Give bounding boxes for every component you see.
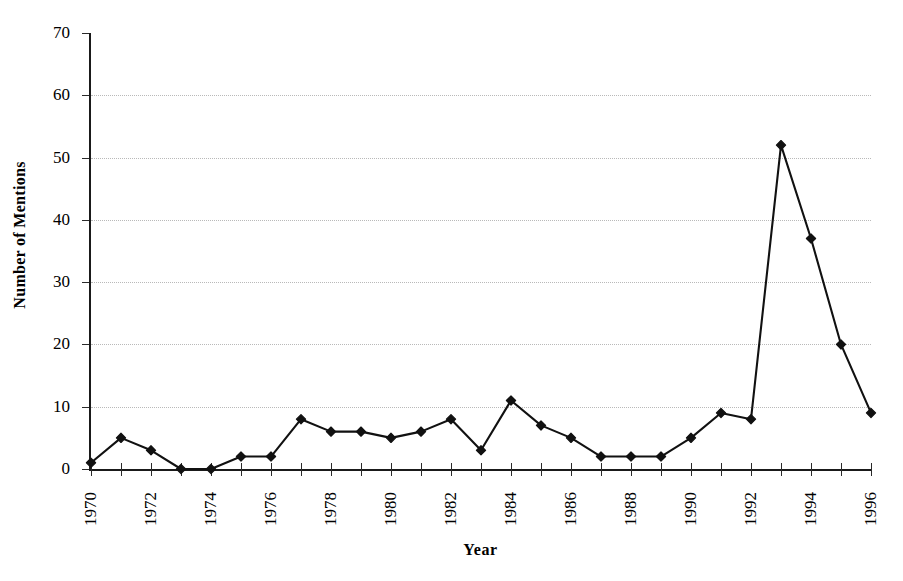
data-point-marker [506,396,515,405]
data-point-marker [116,433,125,442]
x-axis-tick-mark [631,463,632,476]
y-axis-tick-label: 60 [26,86,70,103]
gridline [91,407,871,409]
x-axis-tick-label: 1976 [261,481,281,539]
x-axis-tick-label: 1988 [621,481,641,539]
x-axis-tick-label: 1986 [561,481,581,539]
x-axis-tick-label-text: 1994 [802,480,820,538]
x-axis-tick-mark [391,463,392,476]
x-axis-tick-mark [91,463,92,476]
x-axis-tick-mark [871,463,872,476]
data-point-marker [656,452,665,461]
x-axis-tick-mark [121,463,122,476]
data-point-marker [776,141,785,150]
y-axis-tick-label: 50 [26,149,70,166]
x-axis-tick-label-text: 1988 [622,480,640,538]
x-axis-tick-label-text: 1984 [502,480,520,538]
x-axis-tick-mark [331,463,332,476]
x-axis-tick-label: 1996 [861,481,881,539]
x-axis-title: Year [89,541,872,559]
x-axis-tick-label-text: 1970 [82,480,100,538]
x-axis-tick-label: 1982 [441,481,461,539]
x-axis-tick-mark [781,463,782,476]
x-axis-tick-mark [661,463,662,476]
x-axis-tick-mark [571,463,572,476]
x-axis-tick-mark [301,463,302,476]
data-point-marker [596,452,605,461]
x-axis-tick-label: 1978 [321,481,341,539]
x-axis-tick-label-text: 1976 [262,480,280,538]
gridline [91,158,871,160]
x-axis-tick-mark [541,463,542,476]
y-axis-tick-label: 20 [26,335,70,352]
y-axis-tick-label: 70 [26,24,70,41]
data-point-marker [686,433,695,442]
data-point-marker [416,427,425,436]
x-axis-tick-label-text: 1992 [742,480,760,538]
y-axis-tick-label: 30 [26,273,70,290]
x-axis-tick-label-text: 1972 [142,480,160,538]
gridline [91,95,871,97]
data-point-marker [806,234,815,243]
data-point-marker [326,427,335,436]
x-axis-tick-label-text: 1982 [442,480,460,538]
x-axis-tick-label: 1984 [501,481,521,539]
x-axis-tick-label: 1990 [681,481,701,539]
x-axis-tick-mark [511,463,512,476]
x-axis-tick-label-text: 1974 [202,480,220,538]
data-point-marker [446,415,455,424]
data-point-marker [236,452,245,461]
x-axis-tick-label-text: 1978 [322,480,340,538]
data-point-marker [266,452,275,461]
y-axis-tick-label: 40 [26,211,70,228]
data-point-marker [146,446,155,455]
x-axis-tick-label: 1992 [741,481,761,539]
y-axis-tick-label: 0 [26,460,70,477]
x-axis-tick-label: 1980 [381,481,401,539]
y-axis-tick-label: 10 [26,398,70,415]
x-axis-tick-mark [601,463,602,476]
x-axis-tick-mark [721,463,722,476]
data-point-marker [716,408,725,417]
chart-figure: Number of Mentions 010203040506070 19701… [0,0,903,581]
series-polyline [91,145,871,469]
x-axis-tick-mark [481,463,482,476]
x-axis-tick-mark [691,463,692,476]
gridline [91,282,871,284]
x-axis-tick-label: 1974 [201,481,221,539]
gridline [91,220,871,222]
x-axis-tick-label: 1970 [81,481,101,539]
data-point-marker [536,421,545,430]
data-point-marker [746,415,755,424]
data-point-marker [386,433,395,442]
x-axis-tick-mark [181,463,182,476]
x-axis-tick-mark [811,463,812,476]
x-axis-tick-label-text: 1980 [382,480,400,538]
x-axis-tick-label-text: 1986 [562,480,580,538]
x-axis-tick-label: 1994 [801,481,821,539]
x-axis-tick-label: 1972 [141,481,161,539]
x-axis-tick-mark [451,463,452,476]
data-point-marker [566,433,575,442]
x-axis-tick-mark [211,463,212,476]
data-point-marker [296,415,305,424]
x-axis-tick-mark [361,463,362,476]
data-point-marker [476,446,485,455]
x-axis-tick-mark [241,463,242,476]
x-axis-tick-mark [751,463,752,476]
data-point-marker [626,452,635,461]
data-point-marker [356,427,365,436]
y-axis-line [89,33,91,471]
data-point-marker [866,408,875,417]
x-axis-tick-mark [421,463,422,476]
x-axis-tick-mark [841,463,842,476]
gridline [91,344,871,346]
x-axis-tick-mark [151,463,152,476]
x-axis-tick-label-text: 1996 [862,480,880,538]
x-axis-tick-label-text: 1990 [682,480,700,538]
x-axis-tick-mark [271,463,272,476]
